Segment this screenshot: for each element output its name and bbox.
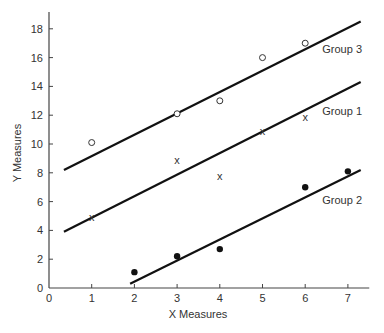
group-3-point: [89, 140, 95, 146]
y-tick-label: 18: [31, 23, 43, 35]
group-1-label: Group 1: [322, 105, 362, 117]
group-2-regression-line: [130, 170, 361, 284]
x-tick-label: 7: [345, 292, 351, 304]
x-tick-label: 3: [174, 292, 180, 304]
x-tick-label: 5: [259, 292, 265, 304]
y-tick-label: 12: [31, 109, 43, 121]
x-tick-label: 6: [302, 292, 308, 304]
x-tick-label: 1: [89, 292, 95, 304]
group-2-point: [174, 253, 180, 259]
group-3-point: [260, 55, 266, 61]
group-1-point: x: [260, 125, 266, 137]
series-labels: Group 3Group 1Group 2: [322, 43, 362, 206]
y-tick-label: 14: [31, 80, 43, 92]
group-3-point: [217, 98, 223, 104]
group-3-point: [302, 40, 308, 46]
group-1-point: x: [217, 170, 223, 182]
y-tick-label: 8: [37, 167, 43, 179]
y-tick-label: 16: [31, 52, 43, 64]
x-tick-label: 2: [131, 292, 137, 304]
group-1-point: x: [89, 211, 95, 223]
x-axis-label: X Measures: [169, 308, 228, 320]
regression-lines: [64, 22, 361, 284]
group-3-point: [174, 111, 180, 117]
group-3-regression-line: [64, 22, 361, 170]
group-2-point: [217, 246, 223, 252]
x-tick-label: 4: [217, 292, 223, 304]
y-tick-label: 0: [37, 282, 43, 294]
group-2-label: Group 2: [322, 194, 362, 206]
y-tick-label: 4: [37, 224, 43, 236]
x-tick-label: 0: [46, 292, 52, 304]
group-2-point: [302, 184, 308, 190]
group-2-point: [131, 269, 137, 275]
y-tick-label: 2: [37, 253, 43, 265]
group-1-point: x: [174, 154, 180, 166]
y-axis-label: Y Measures: [11, 123, 23, 182]
group-2-point: [345, 168, 351, 174]
y-tick-label: 6: [37, 196, 43, 208]
group-3-label: Group 3: [322, 43, 362, 55]
group-1-regression-line: [64, 82, 361, 232]
y-tick-label: 10: [31, 138, 43, 150]
group-1-point: x: [302, 111, 308, 123]
axes: 01234567024681012141618: [31, 12, 370, 304]
scatter-chart: 01234567024681012141618 xxxxx Group 3Gro…: [0, 0, 384, 333]
